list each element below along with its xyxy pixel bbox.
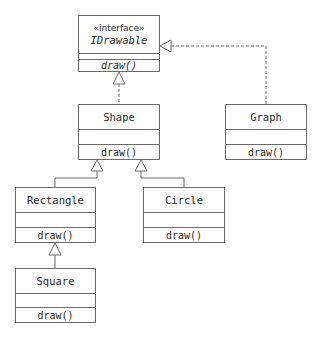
realization-arrowhead-icon [160, 40, 171, 52]
class-name-section: Shape [79, 105, 159, 130]
class-name-section: Square [16, 269, 95, 294]
operations-section: draw() [79, 145, 159, 159]
uml-class-diagram: «interface» IDrawable draw() Shape draw(… [0, 0, 319, 337]
operations-section: draw() [16, 308, 95, 322]
class-name: Rectangle [27, 194, 84, 206]
operations-section: draw() [144, 228, 224, 242]
generalization-rectangle-shape [55, 171, 97, 187]
class-shape[interactable]: Shape draw() [78, 104, 160, 160]
stereotype-label: «interface» [93, 23, 144, 34]
attributes-section [79, 130, 159, 145]
attributes-section [226, 130, 306, 145]
class-circle[interactable]: Circle draw() [143, 187, 225, 243]
operation: draw() [166, 230, 202, 241]
class-name: Circle [165, 194, 203, 206]
operation: draw() [37, 230, 73, 241]
class-name-section: Circle [144, 188, 224, 213]
generalization-arrowhead-icon [135, 160, 147, 171]
class-square[interactable]: Square draw() [15, 268, 96, 323]
class-name: Shape [103, 111, 135, 123]
generalization-arrowhead-icon [91, 160, 103, 171]
class-name: IDrawable [91, 34, 148, 46]
operation: draw() [37, 310, 73, 321]
class-name: Square [37, 275, 75, 287]
operations-section: draw() [79, 60, 159, 71]
operation: draw() [101, 60, 137, 71]
class-name-section: Rectangle [16, 188, 95, 213]
generalization-circle-shape [141, 171, 184, 187]
generalization-arrowhead-icon [49, 243, 61, 255]
attributes-section [16, 213, 95, 228]
class-idrawable[interactable]: «interface» IDrawable draw() [78, 15, 160, 72]
operations-section: draw() [16, 228, 95, 242]
operation: draw() [248, 147, 284, 158]
realization-arrowhead-icon [113, 72, 125, 84]
attributes-section [144, 213, 224, 228]
class-name-section: Graph [226, 105, 306, 130]
class-name: Graph [250, 111, 282, 123]
operations-section: draw() [226, 145, 306, 159]
class-graph[interactable]: Graph draw() [225, 104, 307, 160]
class-rectangle[interactable]: Rectangle draw() [15, 187, 96, 243]
operation: draw() [101, 147, 137, 158]
attributes-section [16, 294, 95, 308]
class-name-section: «interface» IDrawable [79, 16, 159, 54]
realization-graph-idrawable [171, 46, 266, 104]
